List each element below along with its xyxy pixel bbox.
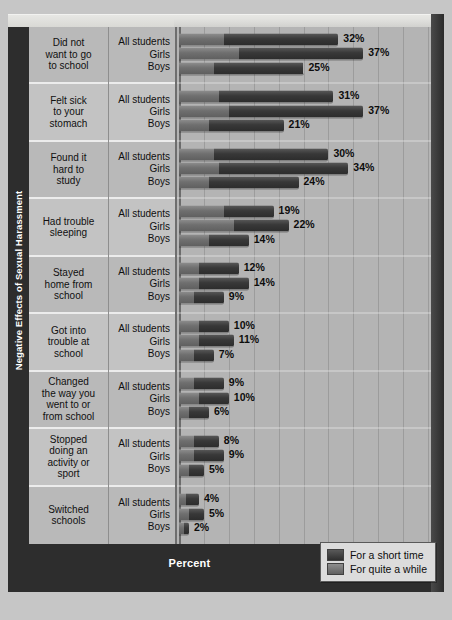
stacked-bar[interactable]: [179, 494, 199, 506]
stacked-bar[interactable]: [179, 407, 209, 419]
effect-label-cell: Stayedhome fromschool: [29, 257, 108, 314]
bar-row: 6%: [177, 407, 431, 419]
bar-value-label: 5%: [209, 463, 224, 475]
bar-segment-quite-a-while: [179, 162, 219, 174]
bar-segment-short-time: [199, 320, 229, 332]
stacked-bar[interactable]: [179, 48, 363, 60]
student-group-label: Girls: [109, 451, 170, 463]
bar-group: 12%14%9%: [177, 257, 431, 314]
bar-segment-short-time: [224, 205, 274, 217]
student-group-cell: All studentsGirlsBoys: [109, 199, 175, 256]
bar-row: 5%: [177, 508, 431, 520]
bar-segment-short-time: [194, 349, 214, 361]
bar-value-label: 22%: [294, 219, 315, 231]
stacked-bar[interactable]: [179, 33, 338, 45]
stacked-bar[interactable]: [179, 62, 304, 74]
bar-segment-short-time: [199, 277, 249, 289]
stacked-bar[interactable]: [179, 91, 333, 103]
effect-label-cell: Switchedschools: [29, 487, 108, 544]
stacked-bar[interactable]: [179, 320, 229, 332]
bar-value-label: 7%: [219, 348, 234, 360]
stacked-bar[interactable]: [179, 277, 249, 289]
bar-row: 2%: [177, 522, 431, 534]
stacked-bar[interactable]: [179, 464, 204, 476]
bar-group: 9%10%6%: [177, 372, 431, 429]
student-group-label: Boys: [109, 233, 170, 245]
bar-segment-quite-a-while: [179, 378, 194, 390]
bar-value-label: 12%: [244, 262, 265, 274]
effect-label-line: doing an: [47, 445, 89, 457]
stacked-bar[interactable]: [179, 263, 239, 275]
bar-segment-quite-a-while: [179, 148, 214, 160]
bar-row: 14%: [177, 234, 431, 246]
bar-row: 8%: [177, 435, 431, 447]
stacked-bar[interactable]: [179, 162, 348, 174]
bar-value-label: 24%: [304, 176, 325, 188]
student-group-label: Girls: [109, 509, 170, 521]
bar-segment-short-time: [194, 292, 224, 304]
stacked-bar[interactable]: [179, 177, 299, 189]
stacked-bar[interactable]: [179, 105, 363, 117]
bar-segment-quite-a-while: [179, 105, 229, 117]
stacked-bar[interactable]: [179, 119, 284, 131]
stacked-bar[interactable]: [179, 435, 219, 447]
legend-item-short-time: For a short time: [327, 548, 427, 562]
effect-label-line: school: [45, 290, 93, 302]
effect-label-line: sport: [47, 468, 89, 480]
student-group-column: All studentsGirlsBoysAll studentsGirlsBo…: [109, 27, 177, 544]
stacked-bar[interactable]: [179, 205, 274, 217]
bar-segment-short-time: [209, 234, 249, 246]
stacked-bar[interactable]: [179, 292, 224, 304]
stacked-bar[interactable]: [179, 148, 328, 160]
bar-segment-quite-a-while: [179, 91, 219, 103]
effect-label-cell: Felt sickto yourstomach: [29, 84, 108, 141]
effect-label-cell: Found ithard tostudy: [29, 142, 108, 199]
bar-segment-quite-a-while: [179, 508, 189, 520]
bar-segment-quite-a-while: [179, 263, 199, 275]
chart-frame: Negative Effects of Sexual Harassment Di…: [8, 14, 444, 592]
student-group-label: Girls: [109, 163, 170, 175]
legend-swatch-short-time-icon: [327, 549, 344, 561]
student-group-cell: All studentsGirlsBoys: [109, 84, 175, 141]
effect-label-line: from school: [42, 411, 95, 423]
student-group-label: All students: [109, 208, 170, 220]
student-group-cell: All studentsGirlsBoys: [109, 257, 175, 314]
effect-label-line: Changed: [42, 376, 95, 388]
stacked-bar[interactable]: [179, 349, 214, 361]
bar-segment-short-time: [189, 464, 204, 476]
stacked-bar[interactable]: [179, 234, 249, 246]
student-group-label: Girls: [109, 336, 170, 348]
bar-value-label: 9%: [229, 449, 244, 461]
bar-segment-short-time: [219, 162, 348, 174]
bar-segment-short-time: [229, 105, 363, 117]
bar-group: 4%5%2%: [177, 487, 431, 544]
stacked-bar[interactable]: [179, 378, 224, 390]
bar-row: 10%: [177, 392, 431, 404]
stacked-bar[interactable]: [179, 220, 289, 232]
stacked-bar[interactable]: [179, 450, 224, 462]
bar-segment-short-time: [209, 119, 284, 131]
effect-label-cell: Did notwant to goto school: [29, 27, 108, 84]
bar-segment-quite-a-while: [179, 119, 209, 131]
student-group-label: Boys: [109, 118, 170, 130]
stacked-bar[interactable]: [179, 508, 204, 520]
bar-segment-quite-a-while: [179, 205, 224, 217]
stacked-bar[interactable]: [179, 335, 234, 347]
bar-row: 21%: [177, 119, 431, 131]
student-group-cell: All studentsGirlsBoys: [109, 27, 175, 84]
bar-segment-quite-a-while: [179, 320, 199, 332]
student-group-label: Boys: [109, 521, 170, 533]
student-group-label: Girls: [109, 49, 170, 61]
effect-label-line: home from: [45, 279, 93, 291]
bar-value-label: 10%: [234, 319, 255, 331]
y-axis-title: Negative Effects of Sexual Harassment: [13, 22, 24, 539]
bar-row: 14%: [177, 277, 431, 289]
stacked-bar[interactable]: [179, 522, 189, 534]
bar-group: 19%22%14%: [177, 199, 431, 256]
effect-label-line: activity or: [47, 457, 89, 469]
bar-segment-quite-a-while: [179, 392, 199, 404]
legend-item-quite-a-while: For quite a while: [327, 562, 427, 576]
student-group-label: All students: [109, 266, 170, 278]
stacked-bar[interactable]: [179, 392, 229, 404]
bar-segment-quite-a-while: [179, 277, 199, 289]
